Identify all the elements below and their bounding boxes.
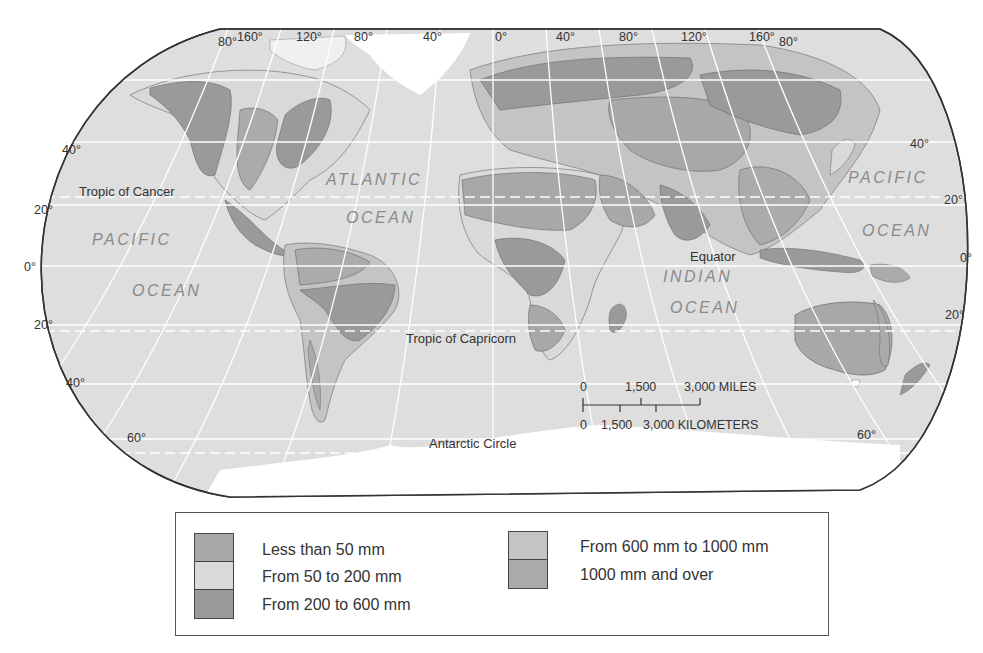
scale-km-max: 3,000 KILOMETERS [643, 418, 758, 432]
legend-swatch-lt50 [195, 534, 233, 562]
latitude-label: 40° [62, 143, 81, 157]
latitude-label: 40° [66, 376, 85, 390]
legend-label: 1000 mm and over [580, 566, 713, 584]
pacific-ocean-east-label: PACIFIC [848, 169, 927, 187]
longitude-label: 80° [779, 35, 798, 49]
latitude-label: 40° [910, 137, 929, 151]
longitude-label: 160° [237, 30, 263, 44]
scale-km-zero: 0 [580, 418, 587, 432]
world-precipitation-map: 80° 160° 120° 80° 40° 0° 40° 80° 120° 16… [0, 0, 983, 505]
antarctic-circle-label: Antarctic Circle [429, 436, 516, 451]
longitude-label: 120° [681, 30, 707, 44]
indian-ocean-label: OCEAN [670, 299, 739, 317]
legend-swatch-200-600 [195, 590, 233, 618]
latitude-label: 20° [945, 308, 964, 322]
legend-swatch-600-1000 [509, 532, 547, 560]
legend-label: From 200 to 600 mm [262, 596, 411, 614]
indian-ocean-label: INDIAN [663, 268, 732, 286]
pacific-ocean-west-label: OCEAN [132, 282, 201, 300]
legend: Less than 50 mm From 50 to 200 mm From 2… [175, 512, 829, 636]
longitude-label: 120° [296, 30, 322, 44]
longitude-label: 0° [495, 30, 507, 44]
latitude-label: 20° [34, 318, 53, 332]
atlantic-ocean-label: OCEAN [346, 209, 415, 227]
scale-km-mid: 1,500 [601, 418, 632, 432]
equator-label: Equator [690, 249, 736, 264]
scale-miles-zero: 0 [580, 380, 587, 394]
longitude-label: 40° [423, 30, 442, 44]
tropic-of-capricorn-label: Tropic of Capricorn [406, 331, 516, 346]
latitude-label: 60° [127, 431, 146, 445]
atlantic-ocean-label: ATLANTIC [326, 171, 422, 189]
longitude-label: 40° [556, 30, 575, 44]
longitude-label: 80° [218, 35, 237, 49]
map-graphic [0, 0, 983, 505]
longitude-label: 80° [354, 30, 373, 44]
legend-swatch-column-right [508, 531, 548, 589]
legend-swatch-over1000 [509, 560, 547, 588]
pacific-ocean-east-label: OCEAN [862, 222, 931, 240]
scale-miles-mid: 1,500 [625, 380, 656, 394]
tropic-of-cancer-label: Tropic of Cancer [79, 184, 175, 199]
legend-label: From 600 mm to 1000 mm [580, 538, 769, 556]
legend-swatch-50-200 [195, 562, 233, 590]
latitude-label: 0° [24, 260, 36, 274]
longitude-label: 160° [749, 30, 775, 44]
legend-label: From 50 to 200 mm [262, 568, 402, 586]
latitude-label: 20° [944, 193, 963, 207]
legend-label: Less than 50 mm [262, 541, 385, 559]
scale-miles-max: 3,000 MILES [684, 380, 756, 394]
pacific-ocean-west-label: PACIFIC [92, 231, 171, 249]
latitude-label: 60° [857, 428, 876, 442]
latitude-label: 20° [34, 203, 53, 217]
latitude-label: 0° [960, 251, 972, 265]
longitude-label: 80° [619, 30, 638, 44]
legend-swatch-column-left [194, 533, 234, 619]
